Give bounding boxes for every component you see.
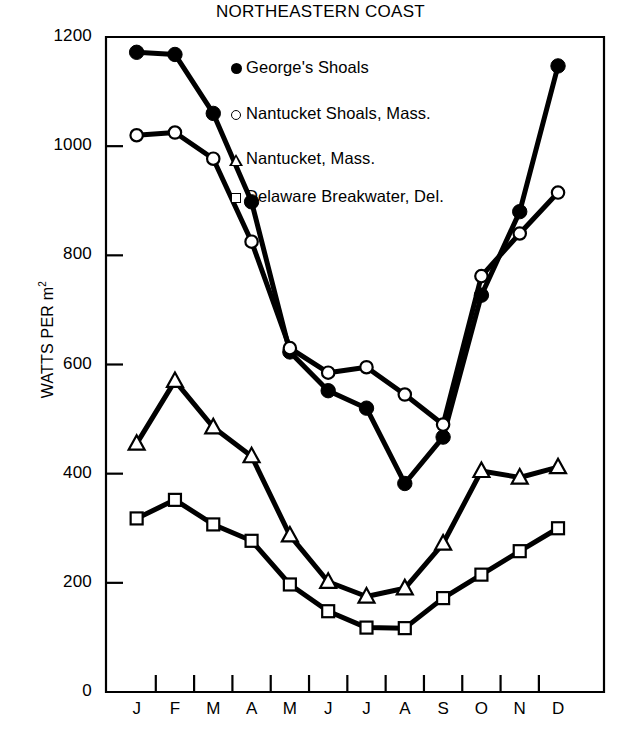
data-point-filled-circle bbox=[321, 384, 335, 398]
data-point-open-triangle bbox=[167, 372, 183, 386]
data-point-open-circle bbox=[207, 153, 219, 165]
data-point-filled-circle bbox=[551, 59, 565, 73]
series-line bbox=[137, 133, 558, 425]
y-axis-tick-label: 200 bbox=[30, 572, 92, 592]
x-axis-tick-label: S bbox=[428, 699, 458, 719]
legend-item-label: Nantucket, Mass. bbox=[246, 149, 375, 167]
open-triangle-glyph bbox=[229, 154, 243, 166]
data-point-open-square bbox=[284, 578, 296, 590]
data-point-open-square bbox=[131, 512, 143, 524]
data-point-open-circle bbox=[399, 388, 411, 400]
legend-item-4: Delaware Breakwater, Del. bbox=[226, 186, 444, 206]
data-point-filled-circle bbox=[129, 45, 143, 59]
x-axis-tick-label: M bbox=[275, 699, 305, 719]
data-point-open-triangle bbox=[550, 459, 566, 473]
open-circle-glyph bbox=[231, 110, 241, 120]
y-axis-tick-label: 800 bbox=[30, 244, 92, 264]
data-point-filled-circle bbox=[359, 401, 373, 415]
series-4 bbox=[131, 494, 564, 634]
filled-circle-glyph bbox=[231, 63, 242, 74]
y-axis-tick-label: 600 bbox=[30, 354, 92, 374]
data-point-open-circle bbox=[475, 270, 487, 282]
data-point-open-circle bbox=[437, 418, 449, 430]
series-2 bbox=[130, 126, 564, 430]
x-axis-tick-label: A bbox=[237, 699, 267, 719]
y-axis-tick-label: 400 bbox=[30, 463, 92, 483]
data-point-filled-circle bbox=[513, 204, 527, 218]
data-point-open-square bbox=[360, 622, 372, 634]
y-axis-tick-label: 1200 bbox=[30, 26, 92, 46]
x-axis-tick-label: D bbox=[543, 699, 573, 719]
data-point-open-circle bbox=[245, 235, 257, 247]
x-axis-tick-label: O bbox=[466, 699, 496, 719]
legend-item-1: George's Shoals bbox=[226, 57, 369, 77]
data-point-filled-circle bbox=[206, 106, 220, 120]
data-point-open-circle bbox=[552, 186, 564, 198]
data-point-open-square bbox=[169, 494, 181, 506]
x-axis-tick-label: M bbox=[198, 699, 228, 719]
data-point-open-square bbox=[514, 545, 526, 557]
series-3 bbox=[129, 372, 566, 602]
data-point-open-circle bbox=[284, 342, 296, 354]
data-point-open-circle bbox=[514, 227, 526, 239]
legend-item-label: Nantucket Shoals, Mass. bbox=[246, 104, 431, 122]
legend-item-label: George's Shoals bbox=[246, 58, 369, 76]
data-point-open-square bbox=[322, 605, 334, 617]
data-point-open-circle bbox=[360, 361, 372, 373]
data-point-open-circle bbox=[169, 126, 181, 138]
y-axis-tick-label: 1000 bbox=[30, 135, 92, 155]
x-axis-tick-label: A bbox=[390, 699, 420, 719]
x-axis-tick-label: F bbox=[160, 699, 190, 719]
x-axis-tick-label: N bbox=[505, 699, 535, 719]
data-point-filled-circle bbox=[398, 476, 412, 490]
data-point-open-square bbox=[552, 522, 564, 534]
x-axis-tick-label: J bbox=[122, 699, 152, 719]
open-circle-icon bbox=[226, 104, 246, 123]
chart-container: NORTHEASTERN COAST WATTS PER m2 12001000… bbox=[0, 0, 641, 740]
y-axis-tick-label: 0 bbox=[30, 681, 92, 701]
data-point-open-square bbox=[246, 535, 258, 547]
x-axis-tick-label: J bbox=[313, 699, 343, 719]
filled-circle-icon bbox=[226, 58, 246, 77]
legend-item-3: Nantucket, Mass. bbox=[226, 148, 375, 168]
data-point-filled-circle bbox=[436, 430, 450, 444]
series-line bbox=[137, 500, 558, 628]
data-point-filled-circle bbox=[168, 47, 182, 61]
legend-item-2: Nantucket Shoals, Mass. bbox=[226, 103, 431, 123]
data-point-open-square bbox=[475, 569, 487, 581]
x-axis-tick-label: J bbox=[351, 699, 381, 719]
open-square-glyph bbox=[231, 193, 241, 203]
data-point-open-circle bbox=[130, 129, 142, 141]
data-point-open-square bbox=[207, 518, 219, 530]
data-point-open-circle bbox=[322, 366, 334, 378]
data-point-open-square bbox=[399, 622, 411, 634]
data-point-open-square bbox=[437, 592, 449, 604]
legend-item-label: Delaware Breakwater, Del. bbox=[246, 187, 444, 205]
open-triangle-icon bbox=[226, 149, 246, 168]
open-square-icon bbox=[226, 187, 246, 206]
